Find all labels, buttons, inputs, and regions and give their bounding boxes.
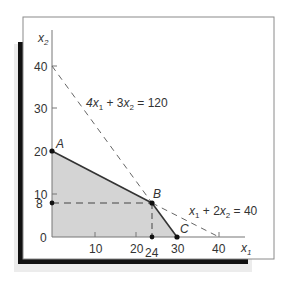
point-a-label: A [55,137,64,151]
point-a [49,148,54,153]
y-tick-30: 30 [34,102,48,116]
x-tick-24: 24 [145,246,159,260]
y-tick-0: 0 [40,231,47,245]
y-tick-20: 20 [34,145,48,159]
point-c-label: C [180,222,189,236]
point-c [174,234,179,239]
frame-shadow-bottom [18,259,248,264]
linear-programming-figure: 40 30 20 10 8 0 10 20 24 30 40 x2 x1 A B… [0,0,289,282]
y-tick-40: 40 [34,60,48,74]
point-b-label: B [153,187,161,201]
x-tick-10: 10 [89,242,103,256]
y-tick-8: 8 [36,197,43,211]
frame-shadow-left [18,42,23,264]
point-x24 [150,235,155,240]
x-tick-30: 30 [171,242,185,256]
x-tick-40: 40 [212,242,226,256]
constraint-label-1: 4x1 + 3x2 = 120 [86,96,168,112]
point-b [149,200,154,205]
point-y8 [50,201,55,206]
x-tick-20: 20 [130,242,144,256]
